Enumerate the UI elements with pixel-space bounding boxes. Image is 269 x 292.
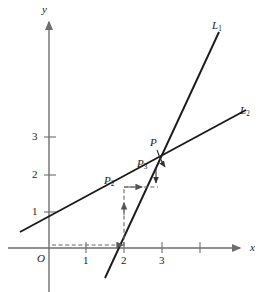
line-l2 (20, 110, 246, 232)
line-label-l1-sub: 1 (218, 25, 222, 33)
x-tick-label-3: 3 (159, 255, 165, 266)
line-label-l2: L2 (240, 105, 250, 116)
point-label-p3: P3 (137, 158, 147, 169)
origin-label: O (37, 253, 45, 264)
line-label-l2-sub: 2 (246, 110, 250, 118)
point-label-p3-sub: 3 (144, 163, 148, 171)
y-axis-label: y (42, 4, 47, 15)
x-tick-label-1: 1 (83, 255, 89, 266)
y-tick-label-3: 3 (32, 131, 38, 142)
y-tick-label-2: 2 (32, 169, 38, 180)
math-figure: y x O 1 2 3 1 2 3 L1 L2 P P3 P2 (0, 0, 269, 292)
point-label-p2-text: P (104, 174, 111, 186)
point-label-p: P (150, 137, 157, 148)
point-label-p2: P2 (104, 175, 114, 186)
point-label-p3-text: P (137, 157, 144, 169)
point-label-p-text: P (150, 136, 157, 148)
line-label-l1: L1 (212, 20, 222, 31)
point-label-p2-sub: 2 (111, 180, 115, 188)
x-axis-label: x (250, 242, 255, 253)
figure-canvas (0, 0, 269, 292)
line-l1 (105, 32, 219, 278)
y-tick-label-1: 1 (32, 206, 38, 217)
x-tick-label-2: 2 (121, 255, 127, 266)
